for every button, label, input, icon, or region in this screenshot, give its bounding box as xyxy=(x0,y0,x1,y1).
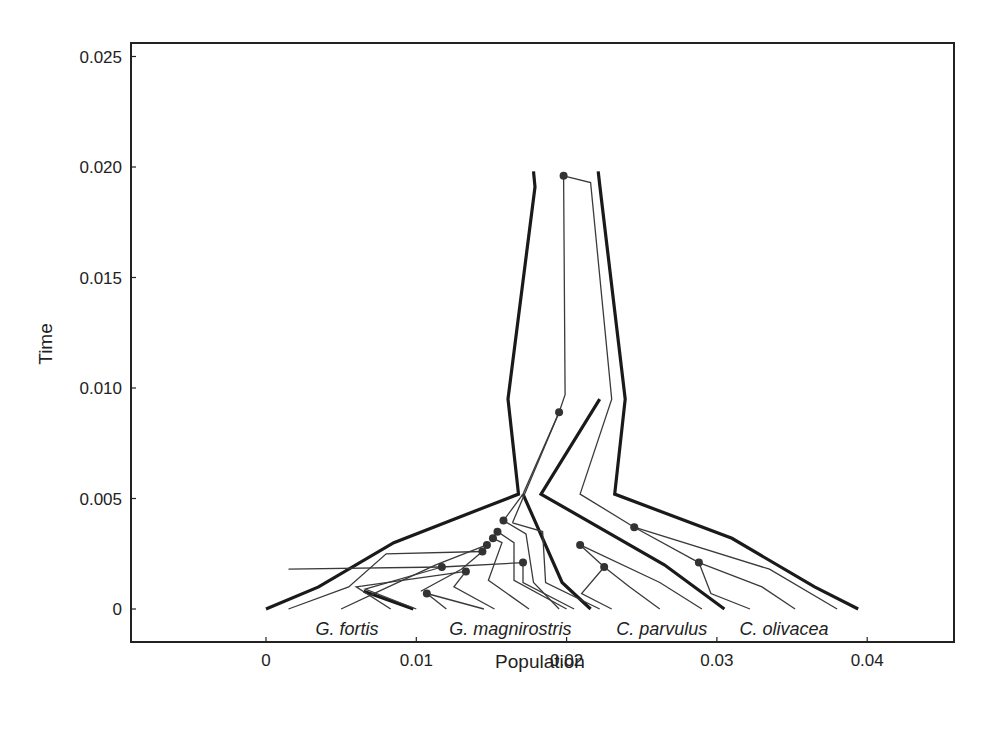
coalescent-node xyxy=(493,528,501,536)
gene-lineage xyxy=(559,176,565,412)
population-boundary-inner-split xyxy=(523,494,591,609)
coalescent-node xyxy=(630,523,638,531)
y-axis-title: Time xyxy=(35,323,56,365)
x-axis-title: Population xyxy=(495,651,585,672)
gene-lineage xyxy=(604,567,660,609)
coalescent-node xyxy=(423,590,431,598)
coalescent-nodes xyxy=(423,172,703,598)
population-boundaries xyxy=(266,171,858,609)
y-tick-label: 0.020 xyxy=(79,158,122,177)
gene-lineage xyxy=(504,521,560,609)
species-label: G. fortis xyxy=(316,619,379,639)
coalescent-node xyxy=(600,563,608,571)
coalescent-node xyxy=(695,559,703,567)
coalescent-node xyxy=(478,548,486,556)
population-boundary-outer-left xyxy=(266,171,535,609)
y-tick-label: 0 xyxy=(113,600,122,619)
gene-lineage xyxy=(341,545,487,609)
gene-lineage xyxy=(427,594,484,610)
coalescent-node xyxy=(483,541,491,549)
population-boundary-parvulus-branch xyxy=(541,399,724,609)
gene-lineage xyxy=(454,571,495,609)
x-tick-label: 0.01 xyxy=(400,651,433,670)
species-label: G. magnirostris xyxy=(449,619,571,639)
gene-lineages xyxy=(289,176,838,609)
coalescent-node xyxy=(555,408,563,416)
x-tick-label: 0.03 xyxy=(700,651,733,670)
coalescent-node xyxy=(560,172,568,180)
gene-lineage xyxy=(365,567,442,609)
plot-frame xyxy=(131,43,954,642)
y-axis-ticks: 00.0050.0100.0150.0200.025 xyxy=(79,48,136,620)
coalescent-node xyxy=(499,517,507,525)
population-boundary-outer-right xyxy=(598,171,858,609)
coalescent-node xyxy=(519,559,527,567)
y-tick-label: 0.025 xyxy=(79,48,122,67)
y-tick-label: 0.005 xyxy=(79,490,122,509)
gene-lineage xyxy=(564,176,635,527)
species-labels: G. fortisG. magnirostrisC. parvulusC. ol… xyxy=(316,619,829,639)
chart: 00.010.020.030.04 00.0050.0100.0150.0200… xyxy=(0,0,986,734)
y-tick-label: 0.010 xyxy=(79,379,122,398)
x-tick-label: 0.04 xyxy=(851,651,884,670)
x-tick-label: 0 xyxy=(261,651,270,670)
species-label: C. olivacea xyxy=(739,619,828,639)
y-tick-label: 0.015 xyxy=(79,269,122,288)
coalescent-node xyxy=(462,567,470,575)
gene-lineage xyxy=(699,563,750,609)
gene-lineage xyxy=(356,571,466,609)
gene-lineage xyxy=(421,552,483,592)
species-label: C. parvulus xyxy=(616,619,707,639)
population-boundary-fortis-short xyxy=(364,591,414,609)
gene-lineage xyxy=(580,545,604,567)
gene-lineage xyxy=(289,567,442,569)
coalescent-node xyxy=(438,563,446,571)
coalescent-node xyxy=(489,534,497,542)
coalescent-node xyxy=(576,541,584,549)
